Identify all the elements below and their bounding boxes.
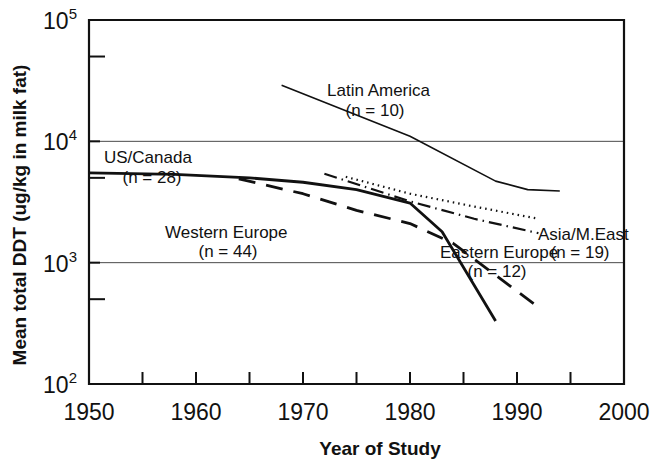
- x-tick-label-1980: 1980: [384, 399, 435, 425]
- ddt-trend-line-chart: 105 104 103 102 195019601970198019902000…: [0, 0, 660, 464]
- y-tick-label-1e4: 104: [43, 126, 77, 155]
- series-annotations: Latin America (n = 10) US/Canada (n = 28…: [104, 81, 629, 281]
- x-axis-major-ticks: [89, 372, 624, 384]
- annotation-us-canada-label: US/Canada: [104, 148, 192, 167]
- y-axis-minor-ticks: [89, 20, 105, 384]
- axes-frame: [89, 20, 624, 384]
- x-tick-labels: 195019601970198019902000: [63, 399, 649, 425]
- annotation-western-europe-label: Western Europe: [165, 223, 288, 242]
- x-axis-title: Year of Study: [319, 438, 441, 459]
- y-tick-label-1e3: 103: [43, 248, 77, 277]
- plot-frame: [89, 20, 624, 384]
- series-line-latin-america: [282, 85, 560, 191]
- y-tick-label-1e2: 102: [43, 369, 77, 398]
- x-tick-label-1970: 1970: [277, 399, 328, 425]
- series-line-eastern-europe: [324, 174, 538, 233]
- annotation-western-europe-count: (n = 44): [198, 242, 257, 261]
- x-tick-label-2000: 2000: [598, 399, 649, 425]
- annotation-latin-america-label: Latin America: [327, 81, 431, 100]
- annotation-asia-count: (n = 19): [550, 243, 609, 262]
- annotation-eastern-europe-label: Eastern Europe: [440, 243, 558, 262]
- y-axis-title: Mean total DDT (ug/kg in milk fat): [9, 65, 30, 366]
- data-series-group: [89, 85, 560, 321]
- annotation-eastern-europe-count: (n = 12): [467, 262, 526, 281]
- x-tick-label-1990: 1990: [491, 399, 542, 425]
- series-line-us-canada: [89, 173, 496, 321]
- x-tick-label-1950: 1950: [63, 399, 114, 425]
- y-tick-labels: 105 104 103 102: [43, 5, 77, 398]
- annotation-latin-america-count: (n = 10): [345, 101, 404, 120]
- annotation-asia-label: Asia/M.East: [538, 225, 629, 244]
- annotation-us-canada-count: (n = 28): [122, 168, 181, 187]
- chart-figure: 105 104 103 102 195019601970198019902000…: [0, 0, 660, 464]
- y-tick-label-1e5: 105: [43, 5, 77, 34]
- series-line-asia-m-east: [346, 177, 539, 219]
- x-tick-label-1960: 1960: [170, 399, 221, 425]
